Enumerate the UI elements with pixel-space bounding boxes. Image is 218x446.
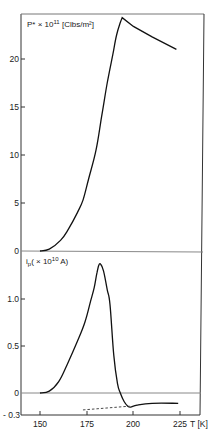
xtick-150: 150 [33,419,47,429]
xtick-200: 200 [126,419,140,429]
top-ytick-10: 10 [10,150,20,160]
bottom-ytick-0.5: 0.5 [7,341,19,351]
top-curve-p-star [40,18,176,251]
bottom-curve-ip [40,264,178,408]
top-ytick-0: 0 [14,246,19,256]
top-ytick-20: 20 [10,54,20,64]
top-ytick-15: 15 [10,102,20,112]
right-frame [200,14,204,415]
bottom-ytick-0: 0 [14,388,19,398]
bottom-ytick-neg0.3: - 0.3 [3,410,20,420]
top-y-axis-label: P* × 1011 [Clbs/m²] [27,19,94,29]
x-ticks: 150 175 200 225 T [K] [33,411,208,429]
top-y-ticks: 20 15 10 5 0 [10,54,25,256]
bottom-ytick-1.0: 1.0 [7,294,19,304]
xtick-225: 225 [173,419,187,429]
panel-divider-zero-line [21,251,203,252]
bottom-y-axis-label: ip( × 1010 A) [26,256,69,267]
chart-figure: 20 15 10 5 0 1.0 0.5 0 - 0.3 150 175 200… [0,0,218,446]
x-axis-label: T [K] [190,419,208,429]
top-ytick-5: 5 [14,198,19,208]
xtick-175: 175 [80,419,94,429]
bottom-dashed-baseline [83,406,130,410]
bottom-y-ticks: 1.0 0.5 0 - 0.3 [3,294,25,420]
